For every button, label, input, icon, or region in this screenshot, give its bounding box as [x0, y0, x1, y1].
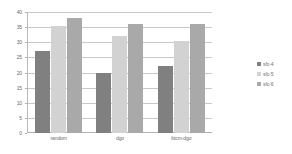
- x-axis-labels: random dgo btcm-dgo: [28, 136, 212, 141]
- legend-label: sfc-5: [263, 72, 273, 77]
- y-axis-tick-label: 40: [17, 10, 22, 15]
- x-axis-label-random: random: [28, 136, 89, 141]
- y-axis-tick-label: 0: [19, 131, 22, 136]
- bar-groups: [28, 12, 212, 133]
- y-axis-tick-label: 15: [17, 85, 22, 90]
- bar-sfc-4-btcm-dgo: [158, 66, 173, 133]
- legend-label: sfc-4: [263, 62, 273, 67]
- legend-item-sfc-4: sfc-4: [257, 61, 292, 67]
- y-axis-tick-label: 20: [17, 70, 22, 75]
- bar-sfc-5-dgo: [112, 36, 127, 133]
- legend-item-sfc-6: sfc-6: [257, 81, 292, 87]
- x-axis-label-btcm-dgo: btcm-dgo: [151, 136, 212, 141]
- y-axis-tick-label: 10: [17, 100, 22, 105]
- bar-group-random: [28, 12, 89, 133]
- bar-sfc-4-dgo: [96, 73, 111, 134]
- legend-item-sfc-5: sfc-5: [257, 71, 292, 77]
- bar-sfc-5-random: [51, 26, 66, 133]
- x-axis-label-dgo: dgo: [89, 136, 150, 141]
- y-axis-tick-label: 5: [19, 115, 22, 120]
- bar-group-btcm-dgo: [151, 12, 212, 133]
- legend-swatch-icon: [257, 62, 261, 66]
- y-axis-tick-label: 35: [17, 25, 22, 30]
- legend-label: sfc-6: [263, 82, 273, 87]
- legend-swatch-icon: [257, 72, 261, 76]
- y-axis-tick-label: 25: [17, 55, 22, 60]
- bar-chart: 40 35 30 25 20 15 10 5 0: [0, 0, 292, 154]
- bar-sfc-6-dgo: [128, 24, 143, 133]
- bar-sfc-6-random: [67, 18, 82, 133]
- legend-swatch-icon: [257, 82, 261, 86]
- bar-sfc-6-btcm-dgo: [190, 24, 205, 133]
- y-axis-tick-label: 30: [17, 40, 22, 45]
- bar-sfc-4-random: [35, 51, 50, 133]
- y-axis-labels: 40 35 30 25 20 15 10 5 0: [0, 12, 25, 133]
- bar-sfc-5-btcm-dgo: [174, 41, 189, 133]
- bar-group-dgo: [89, 12, 150, 133]
- legend: sfc-4 sfc-5 sfc-6: [257, 61, 292, 91]
